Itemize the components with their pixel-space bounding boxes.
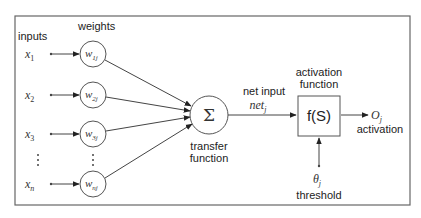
neuron-diagram: inputs weights x1 w1j x2 w2j x3 w3j xn <box>0 0 421 218</box>
activation-function-label-2: function <box>300 78 339 90</box>
activation-function-label-1: activation <box>296 66 342 78</box>
ellipsis-inputs <box>37 154 39 166</box>
input-row-3: x3 w3j <box>24 121 106 147</box>
threshold-label: threshold <box>296 189 341 201</box>
inputs-label: inputs <box>18 30 48 42</box>
output-oj-symbol: Oj <box>371 108 383 124</box>
transfer-function-label-2: function <box>190 152 229 164</box>
threshold-dot <box>318 165 320 167</box>
input-row-2: x2 w2j <box>24 82 106 108</box>
transfer-function-label-1: transfer <box>190 140 228 152</box>
input-row-n: xn wnj <box>24 171 106 197</box>
activation-output-label: activation <box>357 123 403 135</box>
threshold-theta-symbol: θj <box>313 172 322 188</box>
net-input-label: net input <box>243 85 285 97</box>
input-x3: x3 <box>24 127 34 143</box>
sigma-symbol: Σ <box>203 105 215 125</box>
weight-to-sum-connections <box>105 60 192 178</box>
net-j-symbol: netj <box>250 98 268 114</box>
weights-label: weights <box>77 20 116 32</box>
input-row-1: x1 w1j <box>24 41 106 67</box>
input-x1: x1 <box>24 47 34 63</box>
input-x2: x2 <box>24 88 34 104</box>
input-xn: xn <box>24 177 34 193</box>
function-symbol: f(S) <box>307 107 331 124</box>
ellipsis-weights <box>92 154 94 166</box>
